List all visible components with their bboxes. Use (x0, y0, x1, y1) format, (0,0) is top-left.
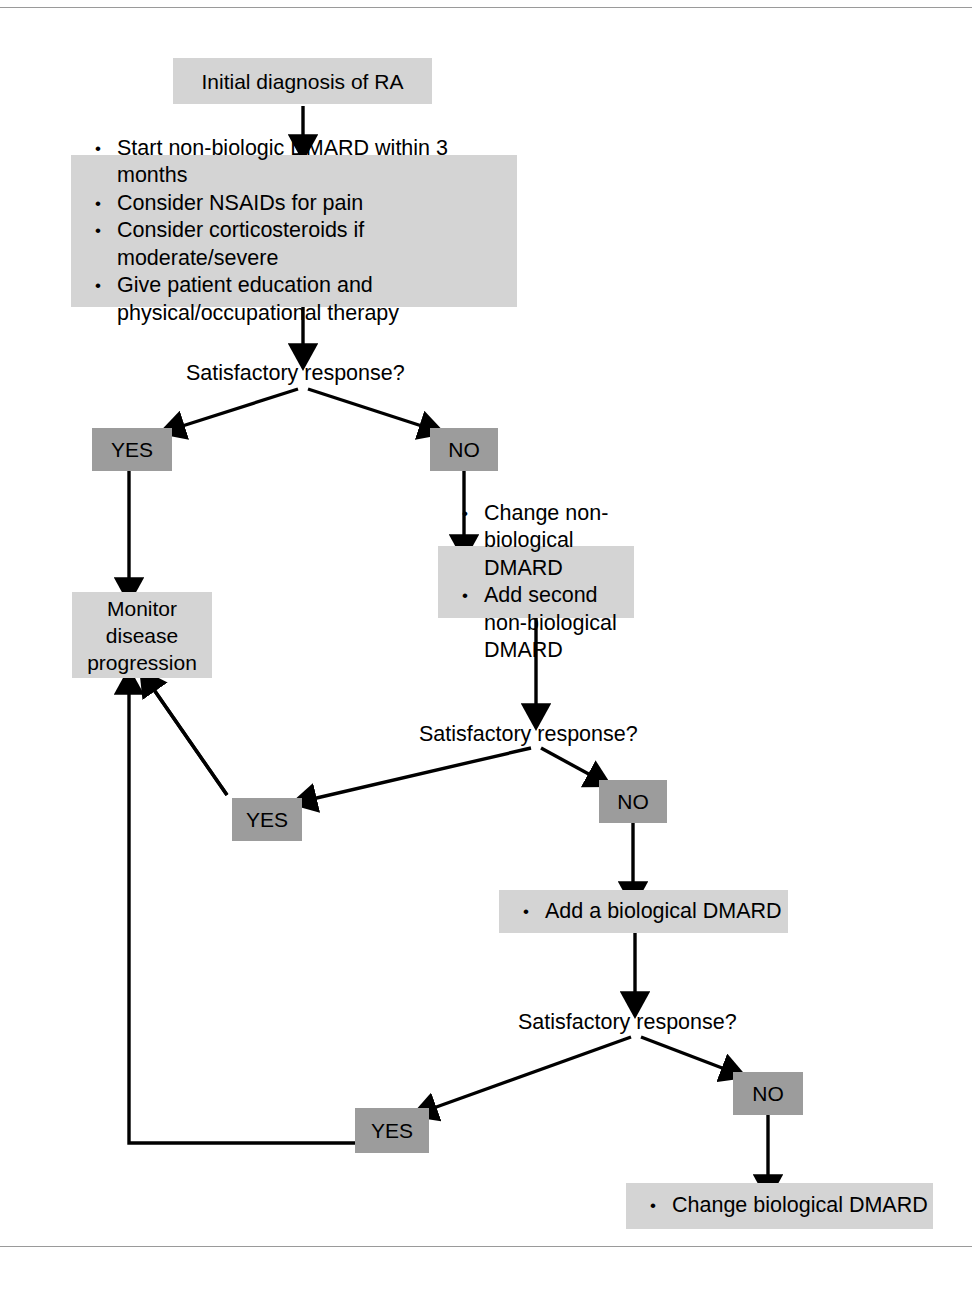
list-item: Consider corticosteroids if moderate/sev… (71, 217, 517, 272)
list-item: Start non-biologic DMARD within 3 months (71, 135, 517, 190)
bottom-divider-rule (0, 1246, 972, 1247)
second-line-treatment-bullet-list: Change non-biological DMARD Add second n… (438, 500, 634, 665)
flowchart-canvas: Initial diagnosis of RA Start non-biolog… (0, 0, 972, 1291)
edge-yes-3-feedback-to-monitor (129, 686, 355, 1143)
node-first-line-treatment: Start non-biologic DMARD within 3 months… (71, 155, 517, 307)
edge-decision-2-to-yes (308, 748, 531, 800)
node-add-biological-dmard: Add a biological DMARD (499, 890, 788, 933)
decision-2-yes-chip: YES (232, 798, 302, 841)
add-biological-bullet-list: Add a biological DMARD (499, 898, 788, 926)
edge-decision-2-to-no (541, 748, 596, 778)
edge-yes-2-to-monitor (150, 684, 227, 795)
node-change-biological-dmard: Change biological DMARD (626, 1183, 933, 1229)
decision-3-yes-label: YES (355, 1117, 429, 1144)
decision-3-no-label: NO (733, 1080, 803, 1107)
decision-2-no-chip: NO (599, 780, 667, 823)
decision-2-no-label: NO (599, 788, 667, 815)
node-monitor-label: Monitor disease progression (87, 595, 197, 676)
decision-2-yes-label: YES (232, 806, 302, 833)
decision-1-yes-chip: YES (92, 428, 172, 471)
node-second-line-treatment: Change non-biological DMARD Add second n… (438, 546, 634, 618)
decision-2-label: Satisfactory response? (419, 722, 638, 746)
first-line-treatment-bullet-list: Start non-biologic DMARD within 3 months… (71, 135, 517, 328)
list-item: Add second non-biological DMARD (438, 582, 634, 665)
decision-3-label: Satisfactory response? (518, 1010, 737, 1034)
decision-1-yes-label: YES (92, 436, 172, 463)
list-item: Change biological DMARD (626, 1192, 933, 1220)
list-item: Change non-biological DMARD (438, 500, 634, 583)
node-monitor-disease-progression: Monitor disease progression (72, 592, 212, 678)
list-item: Give patient education and physical/occu… (71, 272, 517, 327)
node-initial-diagnosis: Initial diagnosis of RA (173, 58, 432, 104)
top-divider-rule (0, 7, 972, 8)
edge-decision-1-to-no (308, 389, 428, 428)
list-item: Consider NSAIDs for pain (71, 190, 517, 218)
decision-3-yes-chip: YES (355, 1108, 429, 1153)
decision-1-no-label: NO (430, 436, 498, 463)
edge-decision-1-to-yes (176, 389, 298, 428)
edge-decision-3-to-yes (428, 1037, 631, 1110)
node-initial-diagnosis-label: Initial diagnosis of RA (202, 68, 404, 95)
change-biological-bullet-list: Change biological DMARD (626, 1192, 933, 1220)
decision-1-no-chip: NO (430, 428, 498, 471)
decision-1-label: Satisfactory response? (186, 361, 405, 385)
edge-decision-3-to-no (641, 1037, 730, 1071)
decision-3-no-chip: NO (733, 1072, 803, 1115)
list-item: Add a biological DMARD (499, 898, 788, 926)
